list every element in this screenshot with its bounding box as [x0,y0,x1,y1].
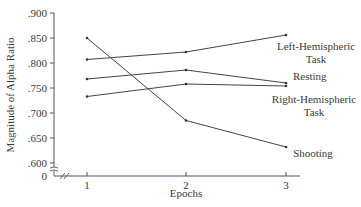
data-point-shooting [86,37,89,40]
y-tick-label: .600 [28,157,48,169]
y-ticks: .900.850.800.750.700.650.6000 [28,7,54,182]
y-tick-label: .900 [28,7,48,19]
data-point-left-hemispheric-task [86,58,89,61]
data-point-left-hemispheric-task [285,34,288,37]
y-tick-label: .800 [28,57,48,69]
label-left-hemispheric: Left-Hemispheric [277,40,355,52]
label-right-hemispheric-task: Task [304,106,325,118]
label-right-hemispheric: Right-Hemispheric [272,93,356,105]
series-line-left-hemispheric-task [87,35,286,60]
y-tick-label: .650 [28,132,48,144]
y-tick-label-zero: 0 [42,170,48,182]
data-point-right-hemispheric-task [285,85,288,88]
series-line-right-hemispheric-task [87,84,286,97]
data-point-left-hemispheric-task [185,51,188,54]
y-axis-title: Magnitude of Alpha Ratio [4,37,16,153]
y-axis-break-icon [50,167,58,176]
data-point-shooting [185,119,188,122]
label-shooting: Shooting [293,147,333,159]
label-resting: Resting [293,70,327,82]
line-chart: .900.850.800.750.700.650.6000 123 Epochs… [0,0,361,207]
y-tick-label: .850 [28,32,48,44]
x-tick-label: 3 [283,179,289,191]
x-tick-label: 1 [84,179,90,191]
data-point-shooting [285,146,288,149]
series-line-resting [87,70,286,83]
data-point-resting [285,82,288,85]
data-lines [86,34,288,149]
y-tick-label: .700 [28,107,48,119]
label-left-hemispheric-task: Task [306,53,327,65]
data-point-resting [185,69,188,72]
x-axis-title: Epochs [170,187,202,199]
data-point-right-hemispheric-task [86,95,89,98]
data-point-right-hemispheric-task [185,83,188,86]
data-point-resting [86,78,89,81]
y-tick-label: .750 [28,82,48,94]
